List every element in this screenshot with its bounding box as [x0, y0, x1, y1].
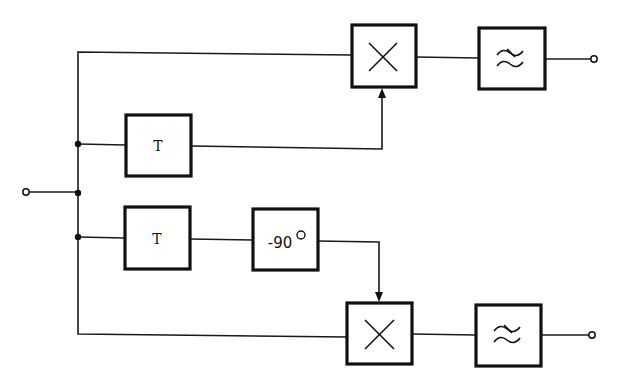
junction-dot — [75, 141, 81, 147]
wire-delay-phase — [190, 239, 253, 240]
phase-shift-label: -90 — [268, 234, 293, 252]
phase-shift-block: -90 — [253, 209, 318, 270]
delay-block-bottom: T — [125, 207, 190, 269]
wire-bus-delay-bottom — [78, 237, 125, 238]
wires — [29, 52, 591, 337]
wire-delay-top-mixer — [191, 96, 382, 149]
arrowhead-up-icon — [378, 88, 386, 98]
wire-mixer-lpf-top — [416, 57, 479, 58]
bus-wire — [78, 52, 352, 337]
output-terminal-top — [591, 56, 597, 62]
arrowhead-down-icon — [375, 292, 383, 302]
wire-bus-delay-top — [78, 144, 126, 145]
input-terminal — [23, 189, 29, 195]
wire-mixer-lpf-bottom — [412, 334, 476, 335]
lowpass-filter-block-top — [479, 28, 545, 89]
delay-label: T — [153, 138, 163, 154]
output-terminal-bottom — [589, 332, 595, 338]
junction-dot — [75, 234, 81, 240]
multiplier-block-bottom — [347, 303, 412, 364]
delay-block-top: T — [126, 115, 191, 176]
delay-label: T — [152, 231, 162, 247]
block-diagram: T T -90 — [0, 0, 617, 383]
junction-dot — [75, 190, 81, 196]
multiplier-block-top — [352, 25, 416, 87]
wire-phase-mixer-bottom — [318, 241, 379, 294]
lowpass-filter-block-bottom — [476, 305, 541, 366]
